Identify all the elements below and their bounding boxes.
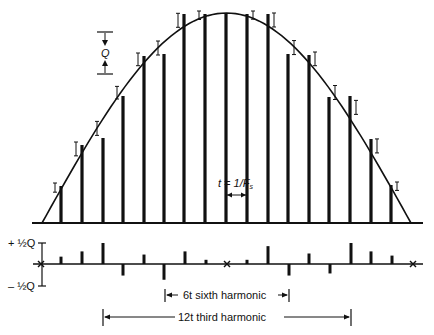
sample-bar [182, 14, 185, 223]
sample-bars [59, 13, 392, 223]
sample-bar [224, 13, 227, 223]
sample-bar [59, 186, 62, 223]
error-bar [370, 251, 373, 264]
plus-half-q-label: + ½Q [8, 237, 36, 249]
q-step-indicator: Q [97, 32, 113, 74]
error-plot: + ½Q – ½Q [8, 237, 423, 292]
error-bar [205, 260, 208, 264]
sample-bar [142, 56, 145, 223]
sixth-harmonic-label: 6t sixth harmonic [183, 289, 267, 301]
error-bar [60, 257, 63, 264]
sample-bar [266, 14, 269, 223]
q-label: Q [101, 47, 110, 59]
sample-interval-label: t = 1/F [218, 177, 251, 189]
sample-bar [121, 96, 124, 223]
sample-bar [327, 97, 330, 223]
sample-bar [348, 96, 351, 223]
sixth-harmonic-annotation: 6t sixth harmonic [165, 289, 289, 302]
error-bar [184, 251, 187, 264]
svg-text:t = 1/Fs: t = 1/Fs [218, 177, 254, 190]
error-bar [329, 264, 332, 273]
error-bar [246, 260, 249, 264]
sample-bar [203, 14, 206, 223]
error-bar [163, 264, 166, 280]
sample-bar [101, 138, 104, 223]
error-bar [81, 251, 84, 264]
sample-bar [80, 145, 83, 223]
error-bar [308, 254, 311, 265]
error-bar [267, 246, 270, 264]
error-bar [391, 256, 394, 264]
error-bar [350, 243, 353, 264]
sample-bar [286, 54, 289, 223]
sample-bar [307, 55, 310, 223]
error-bars [60, 243, 394, 280]
quantization-diagram: Q t = 1/Fs + ½Q – ½Q 6t sixth harmonic [0, 0, 434, 335]
error-bar [143, 255, 146, 264]
sample-bar [389, 185, 392, 223]
third-harmonic-label: 12t third harmonic [178, 311, 267, 323]
error-bar [102, 243, 105, 264]
error-bar [288, 264, 291, 276]
error-bar [122, 264, 125, 276]
minus-half-q-label: – ½Q [8, 280, 35, 292]
sample-bar [162, 54, 165, 223]
third-harmonic-annotation: 12t third harmonic [103, 309, 351, 326]
sample-bar [245, 14, 248, 223]
sample-bar [369, 139, 372, 223]
